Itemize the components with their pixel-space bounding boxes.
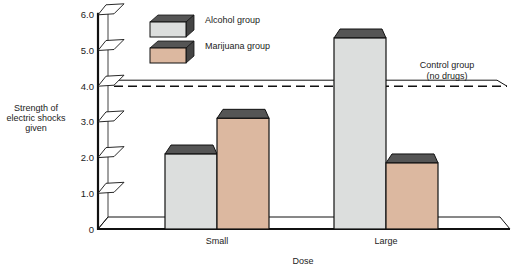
y-tick-4.0: 4.0 (81, 81, 94, 92)
y-tick-1.0: 1.0 (81, 188, 94, 199)
bar-marijuana-large (386, 154, 438, 229)
y-tick-2.0: 2.0 (81, 152, 94, 163)
y-tick-3.0: 3.0 (81, 116, 94, 127)
reference-line-sublabel: (no drugs) (426, 71, 467, 81)
x-axis-label: Dose (292, 256, 313, 266)
y-axis-label: electric shocks (6, 113, 66, 123)
bar-chart: Control group(no drugs) SmallLarge 01.02… (0, 0, 512, 271)
y-axis-label: Strength of (14, 103, 59, 113)
y-tick-6.0: 6.0 (81, 9, 94, 20)
legend-item-marijuana: Marijuana group (150, 41, 270, 63)
bar-marijuana-small (217, 109, 269, 229)
y-tick-5.0: 5.0 (81, 45, 94, 56)
chart-floor (98, 217, 510, 229)
reference-line-label: Control group (420, 60, 475, 70)
legend-item-alcohol: Alcohol group (150, 15, 260, 37)
y-axis: 01.02.03.04.05.06.0 (81, 4, 124, 235)
x-tick-small: Small (206, 236, 229, 246)
bar-alcohol-large (334, 29, 386, 229)
legend-label: Marijuana group (205, 41, 270, 51)
control-group-reference-line: Control group(no drugs) (114, 60, 507, 86)
x-tick-large: Large (374, 236, 397, 246)
bars: SmallLarge (165, 29, 438, 246)
y-axis-label: given (25, 123, 47, 133)
legend-label: Alcohol group (205, 15, 260, 25)
bar-alcohol-small (165, 145, 217, 229)
y-tick-0: 0 (89, 224, 94, 235)
legend: Alcohol groupMarijuana group (150, 15, 270, 63)
